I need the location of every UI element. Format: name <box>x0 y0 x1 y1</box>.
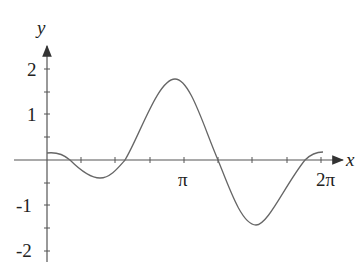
y-axis-label: y <box>35 17 46 38</box>
plot-svg: y x π 2π 2 1 -1 -2 <box>0 0 360 268</box>
x-axis-label: x <box>345 149 355 170</box>
function-curve <box>47 79 323 225</box>
tick-label-ym1: -1 <box>16 195 32 216</box>
tick-label-y2: 2 <box>27 59 37 80</box>
tick-label-pi: π <box>178 169 188 190</box>
tick-label-y1: 1 <box>27 104 37 125</box>
tick-label-ym2: -2 <box>16 240 32 261</box>
tick-label-2pi: 2π <box>316 169 336 190</box>
chart: y x π 2π 2 1 -1 -2 <box>0 0 360 268</box>
